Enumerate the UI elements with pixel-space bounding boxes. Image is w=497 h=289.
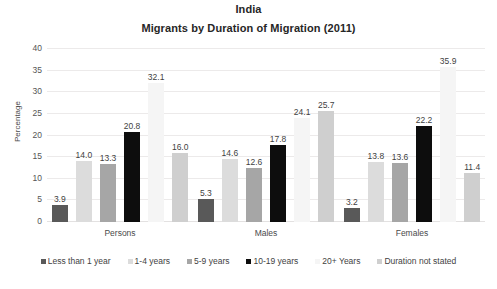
bar-group: 3.914.013.320.832.116.0	[47, 49, 193, 222]
bar[interactable]: 16.0	[172, 153, 187, 222]
chart-legend: Less than 1 year1-4 years5-9 years10-19 …	[0, 256, 497, 266]
chart-subtitle: Migrants by Duration of Migration (2011)	[0, 20, 497, 36]
legend-item[interactable]: Duration not stated	[377, 256, 456, 266]
bar-slot: 5.3	[194, 49, 218, 222]
bar-value-label: 11.4	[464, 162, 480, 172]
y-axis-tick: 0	[37, 216, 42, 226]
legend-item[interactable]: 1-4 years	[128, 256, 170, 266]
chart-title: India	[0, 2, 497, 17]
bar-groups: 3.914.013.320.832.116.05.314.612.617.824…	[47, 49, 485, 222]
bar-value-label: 13.8	[368, 151, 385, 161]
legend-swatch-icon	[187, 259, 192, 264]
bar[interactable]: 12.6	[246, 168, 261, 222]
legend-item[interactable]: Less than 1 year	[41, 256, 111, 266]
legend-label: 10-19 years	[253, 256, 298, 266]
legend-swatch-icon	[377, 259, 382, 264]
bar-value-label: 22.2	[416, 115, 433, 125]
y-axis-tick: 30	[33, 86, 42, 96]
y-axis-tick: 25	[33, 108, 42, 118]
legend-label: 20+ Years	[322, 256, 360, 266]
bar-slot: 20.8	[120, 49, 144, 222]
bar-slot: 3.2	[340, 49, 364, 222]
bar[interactable]: 35.9	[440, 67, 455, 222]
legend-swatch-icon	[41, 259, 46, 264]
legend-label: 5-9 years	[194, 256, 229, 266]
bar[interactable]: 14.0	[76, 161, 91, 222]
bar[interactable]: 32.1	[148, 83, 163, 222]
bar-slot: 25.7	[314, 49, 338, 222]
x-axis-tick: Females	[339, 228, 485, 238]
bar-slot: 17.8	[266, 49, 290, 222]
x-axis-labels: PersonsMalesFemales	[47, 228, 485, 238]
y-axis-tick: 15	[33, 151, 42, 161]
y-axis-tick: 5	[37, 194, 42, 204]
bar-value-label: 13.3	[100, 153, 117, 163]
bar-slot: 16.0	[168, 49, 192, 222]
bar-value-label: 12.6	[246, 157, 263, 167]
y-axis-title: Percentage	[13, 77, 22, 167]
bar[interactable]: 25.7	[318, 111, 333, 222]
bar-group: 5.314.612.617.824.125.7	[193, 49, 339, 222]
legend-label: 1-4 years	[135, 256, 170, 266]
bar-value-label: 35.9	[440, 56, 457, 66]
bar-value-label: 3.2	[346, 197, 358, 207]
bar-value-label: 17.8	[270, 134, 287, 144]
bar-slot: 13.6	[388, 49, 412, 222]
bar-value-label: 14.0	[76, 150, 93, 160]
bar-slot: 14.6	[218, 49, 242, 222]
bar-slot: 13.3	[96, 49, 120, 222]
bar-value-label: 3.9	[54, 194, 66, 204]
bar-value-label: 32.1	[148, 72, 165, 82]
legend-label: Duration not stated	[384, 256, 456, 266]
legend-item[interactable]: 10-19 years	[246, 256, 298, 266]
bar[interactable]: 13.3	[100, 164, 115, 222]
bar[interactable]: 5.3	[198, 199, 213, 222]
bar[interactable]: 22.2	[416, 126, 431, 222]
x-axis-tick: Persons	[47, 228, 193, 238]
bar[interactable]: 3.9	[52, 205, 67, 222]
y-axis-tick: 10	[33, 173, 42, 183]
bar[interactable]: 3.2	[344, 208, 359, 222]
legend-swatch-icon	[315, 259, 320, 264]
chart-title-block: India Migrants by Duration of Migration …	[0, 2, 497, 36]
plot-area: 0510152025303540 3.914.013.320.832.116.0…	[47, 49, 485, 222]
bar-value-label: 16.0	[172, 142, 189, 152]
bar[interactable]: 24.1	[294, 118, 309, 222]
bar[interactable]: 11.4	[464, 173, 479, 222]
bar-value-label: 13.6	[392, 152, 409, 162]
bar[interactable]: 20.8	[124, 132, 139, 222]
bar[interactable]: 14.6	[222, 159, 237, 222]
bar-slot: 24.1	[290, 49, 314, 222]
bar-slot: 32.1	[144, 49, 168, 222]
y-axis-tick: 20	[33, 130, 42, 140]
bar-value-label: 25.7	[318, 100, 335, 110]
legend-item[interactable]: 20+ Years	[315, 256, 360, 266]
legend-label: Less than 1 year	[48, 256, 111, 266]
migration-bar-chart: India Migrants by Duration of Migration …	[0, 0, 497, 289]
bar-slot: 35.9	[436, 49, 460, 222]
legend-swatch-icon	[246, 259, 251, 264]
bar[interactable]: 13.8	[368, 162, 383, 222]
bar-value-label: 5.3	[200, 188, 212, 198]
x-axis-tick: Males	[193, 228, 339, 238]
bar-value-label: 24.1	[294, 107, 311, 117]
bar-slot: 14.0	[72, 49, 96, 222]
y-axis-tick: 35	[33, 65, 42, 75]
bar-slot: 11.4	[460, 49, 484, 222]
y-axis-tick: 40	[33, 43, 42, 53]
bar-slot: 13.8	[364, 49, 388, 222]
bar-slot: 3.9	[48, 49, 72, 222]
legend-swatch-icon	[128, 259, 133, 264]
bar[interactable]: 13.6	[392, 163, 407, 222]
bar[interactable]: 17.8	[270, 145, 285, 222]
bar-value-label: 20.8	[124, 121, 141, 131]
bar-group: 3.213.813.622.235.911.4	[339, 49, 485, 222]
legend-item[interactable]: 5-9 years	[187, 256, 229, 266]
bar-slot: 22.2	[412, 49, 436, 222]
bar-slot: 12.6	[242, 49, 266, 222]
bar-value-label: 14.6	[222, 148, 239, 158]
